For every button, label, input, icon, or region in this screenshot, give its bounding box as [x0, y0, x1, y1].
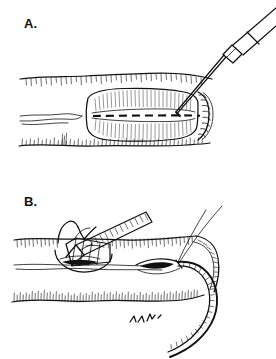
panel-a-label: A.: [24, 16, 37, 31]
illustration-canvas: A.: [0, 0, 276, 359]
figure-container: A.: [0, 0, 276, 359]
panel-b-label: B.: [24, 194, 37, 209]
canvas-background: [0, 0, 276, 359]
